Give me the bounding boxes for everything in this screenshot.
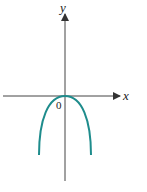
origin-label: 0 — [56, 100, 62, 111]
y-axis-label: y — [60, 1, 66, 14]
x-axis-label: x — [123, 89, 129, 102]
